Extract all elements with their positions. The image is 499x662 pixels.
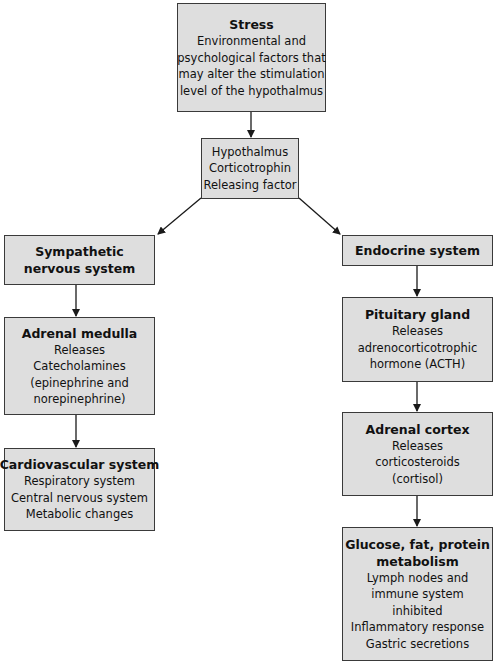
node-sympathetic-nervous-system: Sympathetic nervous system [4,235,155,285]
node-text: may alter the stimulation [179,66,325,83]
node-text: psychological factors that [177,50,325,67]
node-text: Metabolic changes [26,506,134,523]
node-text: Corticotrophin [209,160,291,177]
node-text: Releases [392,438,443,455]
node-title: nervous system [24,260,135,277]
node-text: norepinephrine) [33,391,125,408]
node-text: (cortisol) [392,471,443,488]
node-text: Releases [392,323,443,340]
node-text: inhibited [392,603,442,620]
node-text: corticosteroids [375,454,460,471]
node-title: Cardiovascular system [0,456,159,473]
node-adrenal-medulla: Adrenal medulla Releases Catecholamines … [4,317,155,415]
node-text: Gastric secretions [366,636,469,653]
node-title: Sympathetic [35,243,124,260]
node-stress: Stress Environmental and psychological f… [177,3,326,112]
node-title: Stress [229,16,274,33]
node-cardiovascular-system: Cardiovascular system Respiratory system… [4,448,155,531]
node-hypothalamus: Hypothalmus Corticotrophin Releasing fac… [201,138,299,199]
node-title: Endocrine system [355,242,480,259]
node-text: Inflammatory response [351,619,484,636]
node-text: hormone (ACTH) [370,356,465,373]
node-metabolism: Glucose, fat, protein metabolism Lymph n… [342,527,493,661]
arrow-hypothalamus-to-sympathetic [158,198,201,234]
node-pituitary-gland: Pituitary gland Releases adrenocorticotr… [342,297,493,382]
node-text: Catecholamines [33,358,125,375]
node-text: Hypothalmus [212,144,288,161]
node-text: Lymph nodes and [367,570,469,587]
node-title: Adrenal cortex [366,421,470,438]
node-title: Adrenal medulla [22,325,138,342]
node-title: Glucose, fat, protein [345,536,490,553]
node-text: Releases [54,342,105,359]
node-endocrine-system: Endocrine system [342,235,493,266]
arrow-hypothalamus-to-endocrine [299,198,340,234]
node-title: metabolism [376,553,458,570]
node-text: immune system [371,586,463,603]
node-title: Pituitary gland [365,306,470,323]
node-adrenal-cortex: Adrenal cortex Releases corticosteroids … [342,412,493,496]
node-text: adrenocorticotrophic [358,340,478,357]
node-text: Releasing factor [204,177,297,194]
node-text: (epinephrine and [30,375,129,392]
node-text: Respiratory system [24,473,135,490]
node-text: level of the hypothalmus [180,83,323,100]
node-text: Central nervous system [11,490,148,507]
node-text: Environmental and [197,33,306,50]
